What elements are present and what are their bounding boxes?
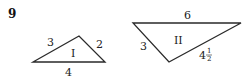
triangle-2-side-right-numerator: 1 (207, 47, 211, 55)
diagram: 9 3 2 4 I 6 3 II 4 1 2 (0, 0, 249, 79)
triangle-2: 6 3 II 4 1 2 (133, 9, 241, 63)
triangle-1-side-left: 3 (47, 36, 54, 49)
problem-number: 9 (8, 7, 16, 21)
triangle-1-side-bottom: 4 (65, 66, 72, 79)
triangle-1-label: I (71, 47, 75, 60)
triangle-1-shape (33, 36, 105, 62)
triangle-2-side-right-whole: 4 (199, 49, 206, 62)
triangle-2-shape (133, 23, 241, 62)
triangle-2-side-left: 3 (140, 40, 147, 53)
triangle-2-label: II (174, 34, 183, 47)
triangle-2-side-right-denominator: 2 (207, 55, 211, 63)
triangle-2-side-top: 6 (184, 9, 191, 22)
triangle-2-side-right: 4 1 2 (199, 47, 212, 63)
triangle-1: 3 2 4 I (33, 36, 105, 79)
triangle-1-side-right: 2 (96, 38, 103, 51)
